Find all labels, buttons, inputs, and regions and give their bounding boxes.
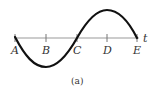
label-e: E bbox=[132, 44, 141, 57]
sine-wave-diagram: A B C D E t (a) bbox=[0, 0, 156, 93]
label-a: A bbox=[10, 44, 19, 57]
label-d: D bbox=[102, 44, 112, 57]
label-c: C bbox=[73, 44, 82, 57]
axis-label-t: t bbox=[143, 32, 148, 45]
figure-caption: (a) bbox=[71, 76, 83, 86]
label-b: B bbox=[41, 44, 50, 57]
